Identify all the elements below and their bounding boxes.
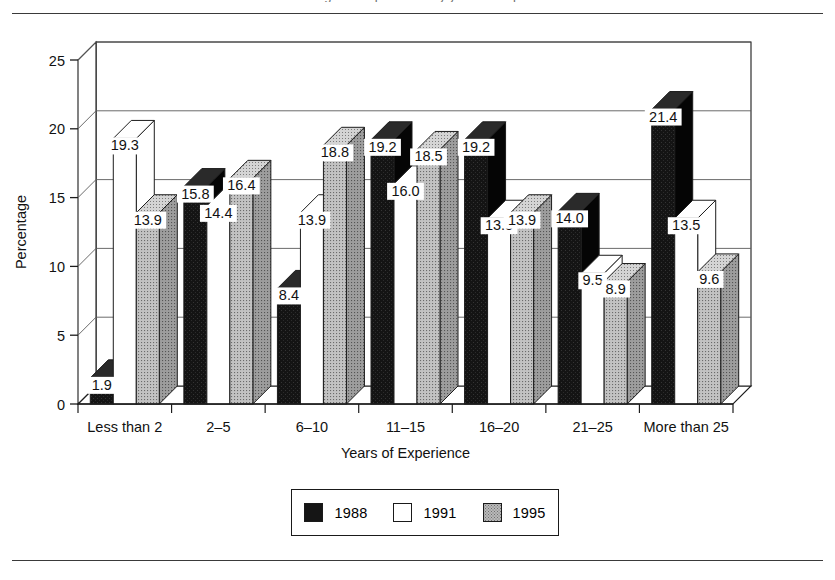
bar-value-label: 9.5 [583,272,603,288]
legend-swatch-1991-icon [393,503,412,522]
bar-value-label: 18.5 [414,148,442,164]
x-axis-category-label: 2–5 [206,419,230,435]
chart-left-wall [78,42,96,404]
bar-side-face [253,160,271,404]
bar-front-face [558,211,581,404]
bar-1995-1 [230,160,271,404]
legend-label-1995: 1995 [513,505,546,521]
bar-value-label: 14.4 [204,205,232,221]
y-axis-title: Percentage [13,195,29,269]
y-axis-tick-label: 5 [57,328,65,344]
legend-label-1988: 1988 [334,505,367,521]
bar-front-face [136,213,159,404]
bar-value-label: 13.9 [298,212,326,228]
legend-item-1991: 1991 [393,503,482,522]
bar-value-label: 8.4 [279,287,299,303]
bar-value-label: 13.5 [672,217,700,233]
bar-value-label: 16.0 [391,183,419,199]
bar-value-label: 13.9 [134,212,162,228]
x-axis-title: Years of Experience [341,445,470,461]
y-axis-tick-label: 10 [49,259,65,275]
x-axis-category-label: 21–25 [572,419,612,435]
y-axis-tick-label: 20 [49,121,65,137]
bar-front-face [277,288,300,404]
legend-item-1995: 1995 [483,503,546,522]
x-axis-category-label: More than 25 [643,419,728,435]
bar-side-face [440,131,458,404]
bar-front-face [488,218,511,404]
bar-value-label: 15.8 [181,186,209,202]
bar-front-face [604,282,627,404]
bar-value-label: 19.2 [368,139,396,155]
bar-value-label: 19.2 [462,139,490,155]
bar-front-face [300,213,323,404]
bar-front-face [371,140,394,404]
x-axis-category-label: Less than 2 [87,419,162,435]
bar-1995-2 [323,127,364,404]
bar-front-face [511,213,534,404]
bar-front-face [323,145,346,404]
bar-front-face [465,140,488,404]
x-axis-category-label: 16–20 [479,419,519,435]
x-axis-category-label: 6–10 [296,419,328,435]
bar-value-label: 21.4 [649,109,677,125]
bar-value-label: 8.9 [606,281,626,297]
bar-front-face [675,218,698,404]
bar-value-label: 16.4 [227,177,255,193]
x-axis-category-label: 11–15 [386,419,425,435]
bar-front-face [207,206,230,404]
y-axis-tick-label: 25 [49,53,65,69]
bar-1995-3 [417,131,458,404]
bar-front-face [652,110,675,404]
bar-value-label: 13.9 [508,212,536,228]
legend-swatch-1995-icon [483,503,502,522]
legend-swatch-1988-icon [304,503,323,522]
legend-label-1991: 1991 [423,505,456,521]
y-axis-tick-label: 0 [57,397,65,413]
y-axis-tick-label: 15 [49,190,65,206]
bar-front-face [698,272,721,404]
legend-item-1988: 1988 [304,503,393,522]
bar-value-label: 19.3 [111,137,139,153]
bar-value-label: 14.0 [556,210,584,226]
bar-front-face [581,273,604,404]
bar-value-label: 1.9 [92,377,112,393]
bar-value-label: 18.8 [321,144,349,160]
bar-side-face [346,127,364,404]
bar-value-label: 9.6 [699,271,719,287]
bar-front-face [113,138,136,404]
bar-front-face [394,184,417,404]
chart-legend: 1988 1991 1995 [291,489,559,536]
